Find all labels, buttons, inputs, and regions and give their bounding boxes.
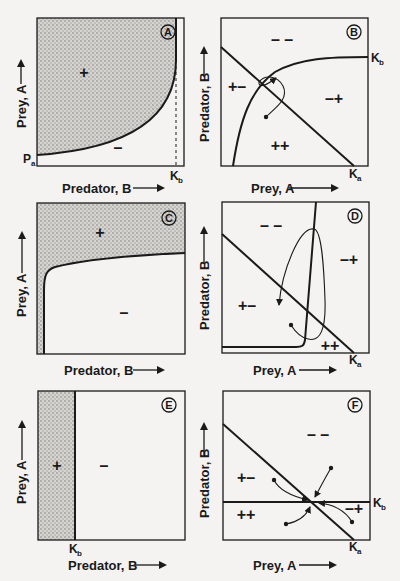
panel-b: B – – +– –+ ++ K b K a Prey, A Predator,…	[197, 18, 384, 196]
region-label: +–	[238, 297, 256, 314]
x-axis-label: Prey, A	[253, 558, 297, 573]
isocline-curve	[44, 253, 185, 354]
y-axis-label: Prey, A	[14, 273, 29, 317]
region-label: +	[95, 224, 104, 241]
shaded-region-positive	[37, 203, 185, 354]
svg-text:b: b	[178, 176, 183, 185]
trajectory	[279, 229, 325, 340]
axis-marker-ka: K a	[349, 167, 362, 183]
svg-text:b: b	[379, 58, 384, 67]
panel-badge: F	[348, 398, 362, 412]
svg-text:F: F	[352, 399, 359, 411]
region-label: –+	[340, 251, 358, 268]
trajectory-2	[315, 468, 331, 497]
axis-marker-kb: K b	[170, 169, 183, 185]
x-axis-label: Predator, B	[62, 181, 131, 196]
region-label: – –	[307, 426, 329, 443]
panel-c: C + – Predator, B Prey, A	[14, 203, 185, 378]
prey-isocline	[222, 234, 354, 353]
trajectory-start-dot	[272, 478, 276, 482]
region-label: –+	[325, 90, 343, 107]
axis-marker-pa: P a	[23, 152, 36, 168]
panel-f: F – – +– ++ –+ K b K a Prey, A Predator,…	[197, 391, 386, 573]
axis-marker-kb: K b	[373, 496, 386, 512]
region-label: ++	[237, 506, 256, 523]
region-label: – –	[271, 31, 293, 48]
svg-text:a: a	[357, 174, 362, 183]
y-axis-label: Predator, B	[197, 73, 212, 142]
x-axis-label: Prey, A	[251, 181, 295, 196]
y-axis-label: Predator, B	[197, 449, 212, 518]
predator-prey-isocline-figure: A + – P a K b Predator, B Prey, A B – – …	[0, 0, 400, 581]
region-label: –	[100, 457, 109, 474]
axis-marker-kb: K b	[69, 542, 82, 558]
svg-text:a: a	[357, 360, 362, 369]
y-axis-label: Predator, B	[197, 261, 212, 330]
svg-text:C: C	[165, 212, 173, 224]
svg-text:a: a	[357, 547, 362, 556]
region-label: ++	[271, 137, 290, 154]
panel-badge: D	[348, 209, 362, 223]
svg-text:A: A	[164, 26, 172, 38]
y-axis-label: Prey, A	[14, 460, 29, 504]
svg-text:D: D	[351, 210, 359, 222]
trajectory-start-dot	[289, 323, 293, 327]
panel-d: D – – –+ +– ++ K a Prey, A Predator, B	[197, 202, 369, 378]
predator-isocline	[233, 57, 368, 166]
panel-badge: E	[162, 398, 176, 412]
region-label: +–	[228, 78, 246, 95]
region-label: +	[52, 457, 61, 474]
svg-text:a: a	[31, 159, 36, 168]
svg-text:B: B	[350, 26, 358, 38]
region-label: –+	[345, 500, 363, 517]
trajectory-start-dot	[350, 520, 354, 524]
region-label: +	[79, 64, 88, 81]
region-label: ++	[321, 337, 340, 354]
region-label: –	[120, 304, 129, 321]
region-label: +–	[237, 469, 255, 486]
shaded-region-positive	[37, 18, 176, 155]
x-axis-label: Predator, B	[68, 558, 137, 573]
axis-marker-ka: K a	[349, 353, 362, 369]
region-label: –	[114, 139, 123, 156]
svg-text:E: E	[165, 399, 172, 411]
region-label: – –	[260, 217, 282, 234]
panel-e: E + – K b Predator, B Prey, A	[14, 391, 185, 573]
y-axis-label: Prey, A	[14, 84, 29, 128]
x-axis-label: Predator, B	[64, 363, 133, 378]
panel-a: A + – P a K b Predator, B Prey, A	[14, 18, 184, 196]
trajectory-start-dot	[329, 466, 333, 470]
svg-text:P: P	[23, 152, 31, 166]
axis-marker-ka: K a	[349, 540, 362, 556]
panel-badge: B	[347, 25, 361, 39]
svg-text:b: b	[77, 549, 82, 558]
x-axis-label: Prey, A	[253, 363, 297, 378]
trajectory-start-dot	[284, 522, 288, 526]
trajectory-start-dot	[264, 115, 268, 119]
axis-marker-kb: K b	[371, 51, 384, 67]
trajectory-3	[286, 507, 310, 524]
svg-text:b: b	[381, 503, 386, 512]
